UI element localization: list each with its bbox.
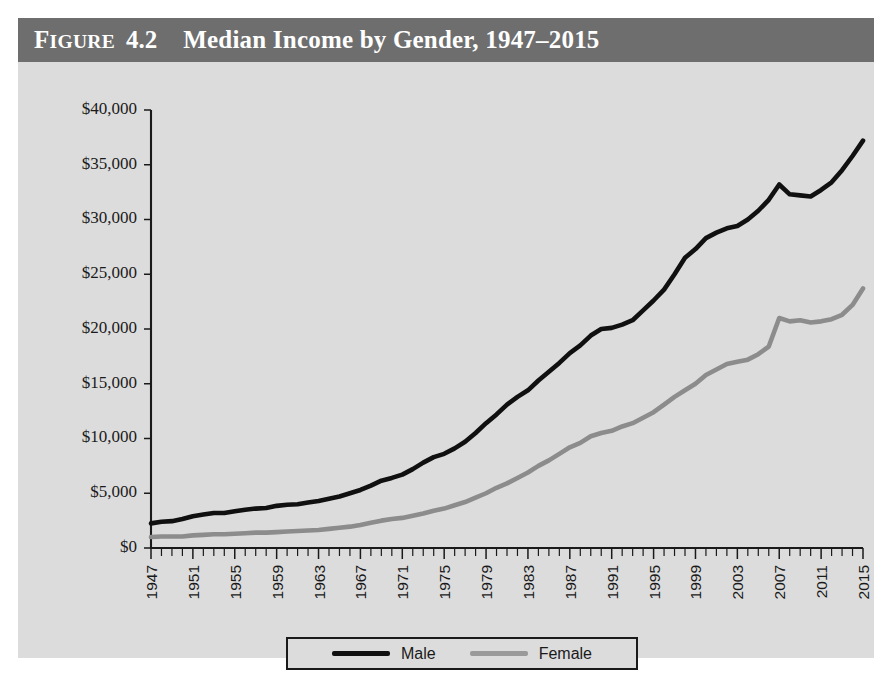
- y-tick-label: $5,000: [90, 482, 137, 501]
- figure-title-text: Median Income by Gender, 1947–2015: [183, 26, 599, 54]
- legend-label-female: Female: [539, 645, 592, 663]
- x-tick-label: 1975: [436, 565, 453, 599]
- x-axis-tick-marks: [151, 548, 863, 559]
- y-tick-label: $25,000: [82, 263, 137, 282]
- series-line-male: [151, 141, 863, 524]
- figure-number: 4.2: [126, 26, 157, 54]
- figure-label-initial: F: [34, 26, 50, 53]
- x-tick-label: 1959: [269, 565, 286, 599]
- y-tick-label: $35,000: [82, 154, 137, 173]
- x-tick-label: 2015: [855, 565, 872, 599]
- figure-label-smallcaps: IGURE: [50, 31, 115, 52]
- figure-container: FIGURE 4.2 Median Income by Gender, 1947…: [0, 0, 892, 676]
- figure-label: FIGURE: [34, 26, 115, 54]
- x-tick-label: 1991: [604, 565, 621, 599]
- y-tick-label: $40,000: [82, 99, 137, 118]
- x-tick-label: 1971: [394, 565, 411, 599]
- x-tick-label: 1983: [520, 565, 537, 599]
- figure-panel: FIGURE 4.2 Median Income by Gender, 1947…: [18, 18, 874, 658]
- x-tick-label: 1963: [311, 565, 328, 599]
- y-tick-label: $10,000: [82, 427, 137, 446]
- x-tick-label: 1999: [687, 565, 704, 599]
- y-tick-label: $0: [120, 537, 137, 556]
- x-axis-tick-labels: 1947195119551959196319671971197519791983…: [143, 565, 872, 599]
- series-line-female: [151, 288, 863, 537]
- x-tick-label: 1951: [185, 565, 202, 599]
- x-tick-label: 2003: [729, 565, 746, 599]
- chart-legend: Male Female: [286, 637, 638, 670]
- x-tick-label: 1967: [352, 565, 369, 599]
- x-tick-label: 1955: [227, 565, 244, 599]
- legend-entry-male: Male: [332, 645, 436, 663]
- plot-area: $0$5,000$10,000$15,000$20,000$25,000$30,…: [18, 62, 874, 658]
- y-tick-label: $20,000: [82, 318, 137, 337]
- x-tick-label: 2011: [813, 565, 830, 598]
- chart-svg: $0$5,000$10,000$15,000$20,000$25,000$30,…: [18, 62, 874, 658]
- legend-swatch-male: [332, 651, 390, 656]
- y-tick-label: $15,000: [82, 373, 137, 392]
- y-tick-label: $30,000: [82, 208, 137, 227]
- x-tick-label: 1995: [646, 565, 663, 599]
- legend-entry-female: Female: [470, 645, 592, 663]
- x-tick-label: 2007: [771, 565, 788, 599]
- figure-title-bar: FIGURE 4.2 Median Income by Gender, 1947…: [18, 18, 874, 62]
- x-tick-label: 1947: [143, 565, 160, 599]
- legend-swatch-female: [470, 651, 528, 656]
- legend-label-male: Male: [401, 645, 436, 663]
- y-axis-tick-labels: $0$5,000$10,000$15,000$20,000$25,000$30,…: [82, 99, 137, 556]
- x-tick-label: 1979: [478, 565, 495, 599]
- x-tick-label: 1987: [562, 565, 579, 599]
